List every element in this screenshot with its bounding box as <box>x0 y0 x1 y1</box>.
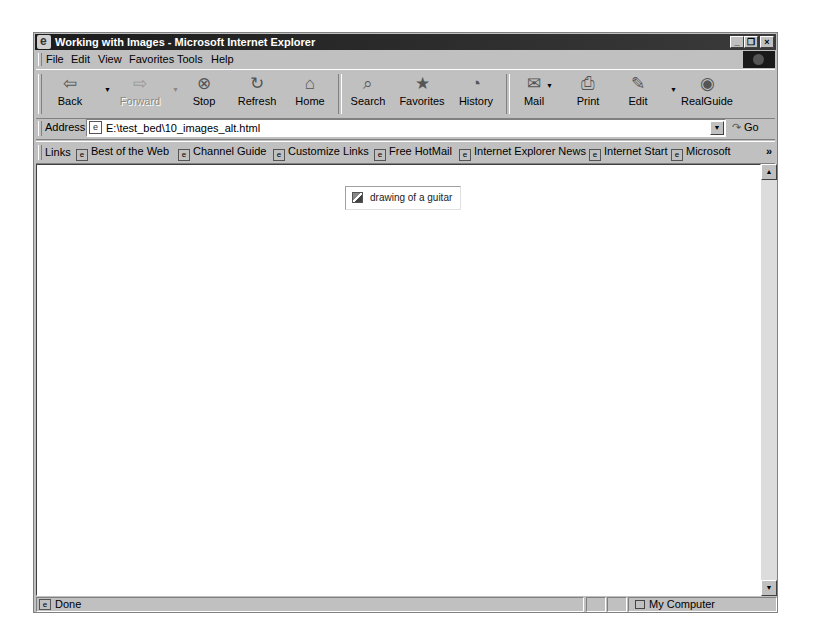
status-progress-panel <box>586 597 606 612</box>
toolbar-separator <box>338 74 342 114</box>
image-alt-text: drawing of a guitar <box>370 187 452 209</box>
title-bar[interactable]: Working with Images - Microsoft Internet… <box>35 34 776 50</box>
edit-icon: ✎ <box>627 74 649 94</box>
favorites-folder-icon: ★ <box>411 74 433 94</box>
home-icon: ⌂ <box>299 74 321 94</box>
search-button[interactable]: ⌕ Search <box>346 72 390 116</box>
restore-button[interactable]: ❐ <box>744 36 758 48</box>
links-overflow-chevron-icon[interactable]: » <box>766 145 772 157</box>
link-microsoft[interactable]: eMicrosoft <box>671 145 731 161</box>
edit-button[interactable]: ✎ Edit <box>618 72 658 116</box>
refresh-button[interactable]: ↻ Refresh <box>232 72 282 116</box>
address-label: Address <box>45 121 85 133</box>
menubar-grip[interactable] <box>38 53 42 66</box>
mail-icon: ✉ <box>523 74 545 94</box>
home-button[interactable]: ⌂ Home <box>288 72 332 116</box>
page-icon: e <box>589 149 601 161</box>
status-security-panel <box>607 597 627 612</box>
scroll-down-button[interactable]: ▼ <box>761 580 777 596</box>
history-icon: ◔ <box>465 74 487 94</box>
page-icon: e <box>671 149 683 161</box>
toolbar-grip[interactable] <box>38 74 42 114</box>
window-title: Working with Images - Microsoft Internet… <box>55 34 315 50</box>
realguide-button[interactable]: ◉ RealGuide <box>678 72 736 116</box>
back-arrow-icon: ⇦ <box>59 74 81 94</box>
history-button[interactable]: ◔ History <box>454 72 498 116</box>
menu-help[interactable]: Help <box>211 51 234 68</box>
go-button[interactable]: ↷ Go <box>732 121 759 134</box>
page-icon: e <box>89 121 102 134</box>
realguide-icon: ◉ <box>696 74 718 94</box>
addressbar-grip[interactable] <box>38 121 42 136</box>
zone-text: My Computer <box>649 597 715 612</box>
menu-bar: File Edit View Favorites Tools Help <box>36 51 775 68</box>
menu-favorites[interactable]: Favorites <box>129 51 174 68</box>
link-internet-start[interactable]: eInternet Start <box>589 145 668 161</box>
stop-icon: ⊗ <box>193 74 215 94</box>
browser-window: Working with Images - Microsoft Internet… <box>33 32 778 613</box>
page-icon: e <box>459 149 471 161</box>
page-icon: e <box>178 149 190 161</box>
menu-tools[interactable]: Tools <box>177 51 203 68</box>
mail-button[interactable]: ✉ Mail <box>514 72 554 116</box>
page-icon: e <box>374 149 386 161</box>
address-bar: Address e E:\test_bed\10_images_alt.html… <box>36 118 775 140</box>
status-text-panel: e Done <box>36 597 584 612</box>
forward-arrow-icon: ⇨ <box>129 74 151 94</box>
links-label: Links <box>45 146 71 158</box>
search-icon: ⌕ <box>357 74 379 94</box>
mail-dropdown-icon[interactable]: ▼ <box>546 82 553 89</box>
page-content: drawing of a guitar <box>36 164 761 596</box>
edit-dropdown-icon[interactable]: ▼ <box>670 86 677 93</box>
back-button[interactable]: ⇦ Back <box>48 72 92 116</box>
menu-view[interactable]: View <box>98 51 122 68</box>
linksbar-grip[interactable] <box>38 145 42 160</box>
status-bar: e Done My Computer <box>36 597 775 612</box>
link-channel-guide[interactable]: eChannel Guide <box>178 145 266 161</box>
address-dropdown-button[interactable]: ▼ <box>710 121 724 135</box>
link-internet-explorer-news[interactable]: eInternet Explorer News <box>459 145 586 161</box>
forward-dropdown-icon[interactable]: ▼ <box>172 86 179 93</box>
stop-button[interactable]: ⊗ Stop <box>182 72 226 116</box>
vertical-scrollbar[interactable]: ▲ ▼ <box>761 164 777 596</box>
refresh-icon: ↻ <box>246 74 268 94</box>
address-input[interactable]: e E:\test_bed\10_images_alt.html ▼ <box>86 119 726 137</box>
minimize-button[interactable]: _ <box>730 36 744 48</box>
close-button[interactable]: × <box>760 36 774 48</box>
go-arrow-icon: ↷ <box>732 121 741 133</box>
standard-toolbar: ⇦ Back ▼ ⇨ Forward ▼ ⊗ Stop ↻ Refresh ⌂ … <box>36 69 775 119</box>
link-best-of-the-web[interactable]: eBest of the Web <box>76 145 169 161</box>
forward-button[interactable]: ⇨ Forward <box>116 72 164 116</box>
ie-throbber-logo <box>743 51 775 68</box>
broken-image-icon <box>352 192 363 203</box>
status-zone-panel: My Computer <box>628 597 777 612</box>
link-customize-links[interactable]: eCustomize Links <box>273 145 369 161</box>
my-computer-icon <box>635 600 645 609</box>
page-icon: e <box>76 149 88 161</box>
back-dropdown-icon[interactable]: ▼ <box>104 86 111 93</box>
print-button[interactable]: ⎙ Print <box>566 72 610 116</box>
page-icon: e <box>273 149 285 161</box>
window-controls: _ ❐ × <box>730 36 774 48</box>
scroll-up-button[interactable]: ▲ <box>761 164 777 180</box>
link-free-hotmail[interactable]: eFree HotMail <box>374 145 452 161</box>
links-bar: Links eBest of the Web eChannel Guide eC… <box>36 141 775 164</box>
page-icon: e <box>39 599 51 610</box>
ie-logo-icon[interactable] <box>37 35 51 49</box>
favorites-button[interactable]: ★ Favorites <box>396 72 448 116</box>
broken-image-placeholder[interactable]: drawing of a guitar <box>345 186 461 210</box>
status-text: Done <box>55 597 81 612</box>
menu-file[interactable]: File <box>46 51 64 68</box>
menu-edit[interactable]: Edit <box>71 51 90 68</box>
toolbar-separator <box>506 74 510 114</box>
print-icon: ⎙ <box>577 74 599 94</box>
